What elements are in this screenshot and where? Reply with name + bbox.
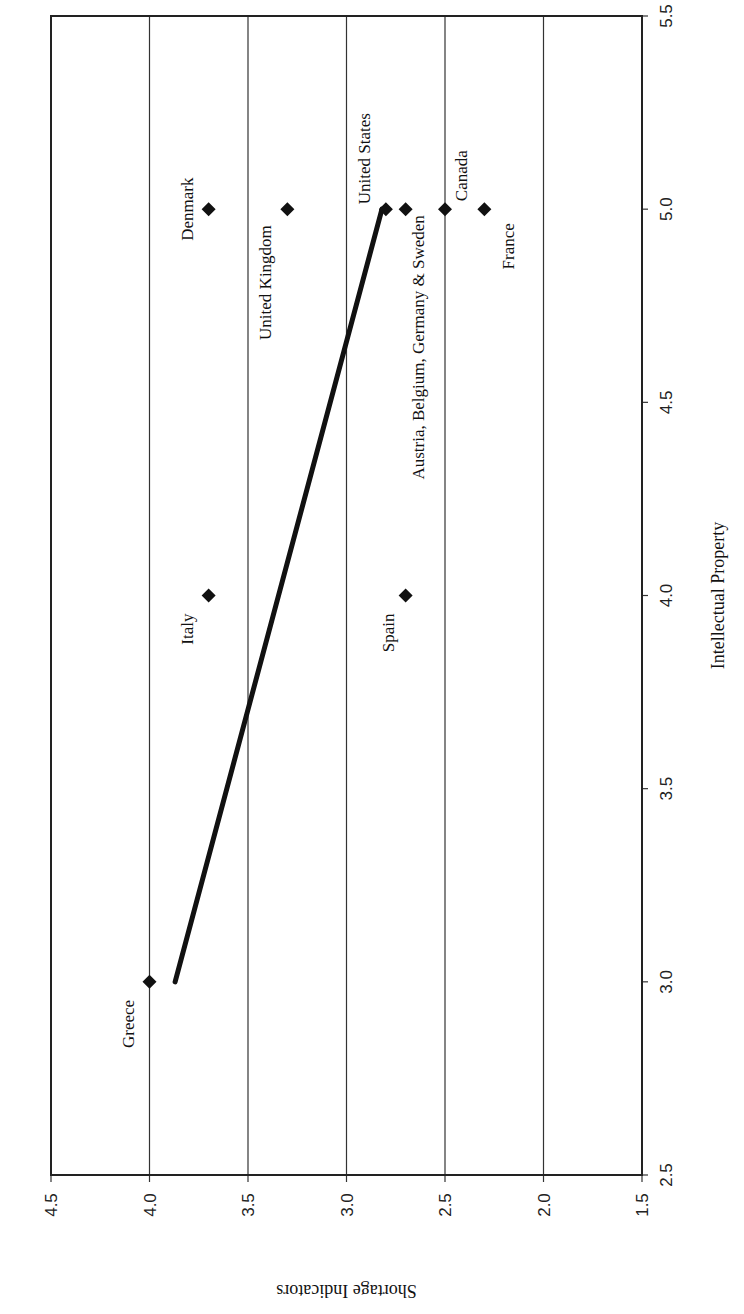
y-tick-label: 2.5 <box>436 1193 455 1217</box>
data-point-diamond <box>143 975 157 989</box>
data-point-diamond <box>477 202 491 216</box>
point-label: Denmark <box>178 177 197 241</box>
point-label: Greece <box>119 1000 138 1048</box>
plot-area: 1.52.02.53.03.54.04.52.53.03.54.04.55.05… <box>42 4 728 1301</box>
x-tick-label: 4.0 <box>657 584 676 608</box>
point-label: United States <box>355 113 374 204</box>
y-axis-title: Shortage Indicators <box>276 1281 416 1301</box>
x-axis-title: Intellectual Property <box>708 522 728 669</box>
x-tick-label: 4.5 <box>657 391 676 415</box>
point-label: France <box>499 223 518 269</box>
x-tick-label: 5.0 <box>657 197 676 221</box>
y-tick-label: 2.0 <box>535 1193 554 1217</box>
point-label: United Kingdom <box>256 225 275 340</box>
data-point-diamond <box>438 202 452 216</box>
data-point-diamond <box>399 202 413 216</box>
y-tick-label: 4.0 <box>141 1193 160 1217</box>
x-tick-label: 5.5 <box>657 4 676 28</box>
point-label: Italy <box>178 613 197 645</box>
point-label: Austria, Belgium, Germany & Sweden <box>409 215 428 480</box>
x-tick-label: 3.5 <box>657 777 676 801</box>
data-point-diamond <box>202 589 216 603</box>
y-tick-label: 4.5 <box>42 1193 61 1217</box>
data-point-diamond <box>202 202 216 216</box>
y-tick-label: 3.5 <box>239 1193 258 1217</box>
data-point-diamond <box>399 589 413 603</box>
scatter-chart: 1.52.02.53.03.54.04.52.53.03.54.04.55.05… <box>0 0 744 1314</box>
y-tick-label: 3.0 <box>338 1193 357 1217</box>
x-tick-label: 3.0 <box>657 970 676 994</box>
data-point-diamond <box>280 202 294 216</box>
point-label: Canada <box>452 150 471 201</box>
x-tick-label: 2.5 <box>657 1163 676 1187</box>
y-tick-label: 1.5 <box>633 1193 652 1217</box>
point-label: Spain <box>379 613 398 652</box>
